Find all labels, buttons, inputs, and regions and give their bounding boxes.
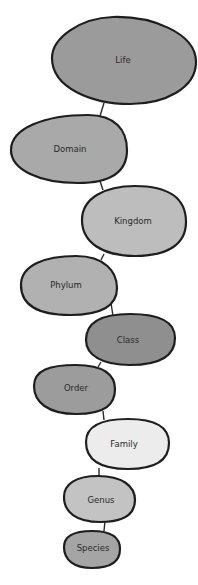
- node-species: Species: [64, 531, 120, 568]
- node-class: Class: [86, 314, 175, 365]
- label-species: Species: [77, 543, 110, 553]
- taxonomy-diagram: Life Domain Kingdom Phylum Class Order F…: [0, 0, 198, 585]
- label-family: Family: [110, 439, 137, 449]
- node-life: Life: [52, 17, 196, 104]
- connector-life-domain: [100, 103, 104, 116]
- connector-class-order: [98, 362, 101, 367]
- label-order: Order: [64, 383, 89, 393]
- node-genus: Genus: [64, 476, 135, 522]
- connector-domain-kingdom: [100, 181, 103, 190]
- connector-order-family: [103, 411, 104, 420]
- label-phylum: Phylum: [50, 280, 82, 290]
- label-domain: Domain: [54, 144, 87, 154]
- node-order: Order: [34, 365, 115, 414]
- label-class: Class: [117, 335, 140, 345]
- label-genus: Genus: [87, 495, 115, 505]
- label-life: Life: [115, 55, 130, 65]
- connector-kingdom-phylum: [101, 254, 104, 260]
- node-phylum: Phylum: [21, 256, 117, 315]
- node-kingdom: Kingdom: [82, 186, 186, 256]
- node-family: Family: [86, 419, 169, 469]
- node-domain: Domain: [11, 115, 127, 183]
- label-kingdom: Kingdom: [114, 216, 152, 226]
